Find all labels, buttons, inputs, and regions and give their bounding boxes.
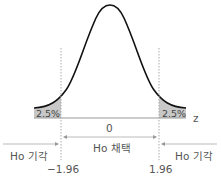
left-reject-arrow-head bbox=[55, 142, 59, 146]
accept-label: Ho 채택 bbox=[93, 143, 131, 154]
left-critical-value: −1.96 bbox=[47, 164, 79, 175]
bell-curve bbox=[34, 5, 186, 108]
left-tail-percent: 2.5% bbox=[36, 109, 60, 119]
right-reject-label: Ho 기각 bbox=[175, 151, 213, 162]
z-axis-label: z bbox=[193, 113, 199, 124]
right-critical-value: 1.96 bbox=[149, 164, 172, 175]
accept-arrow-right-head bbox=[153, 135, 157, 139]
accept-arrow-left-head bbox=[63, 135, 67, 139]
right-tail-percent: 2.5% bbox=[162, 109, 186, 119]
right-reject-arrow-head bbox=[161, 142, 165, 146]
center-tick-label: 0 bbox=[106, 123, 113, 134]
left-reject-label: Ho 기각 bbox=[10, 151, 48, 162]
